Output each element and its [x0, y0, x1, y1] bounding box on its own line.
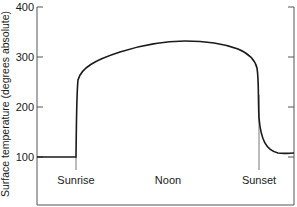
ytick-300: 300	[16, 51, 34, 63]
annotation-noon: Noon	[155, 174, 181, 186]
left-ticks	[37, 7, 43, 157]
right-ticks	[288, 7, 294, 157]
annotation-sunrise: Sunrise	[57, 174, 94, 186]
temperature-curve	[37, 41, 294, 157]
temperature-chart: Surface temperature (degrees absolute) 4…	[0, 0, 297, 207]
ytick-100: 100	[16, 151, 34, 163]
ytick-400: 400	[16, 1, 34, 13]
y-axis-label: Surface temperature (degrees absolute)	[0, 11, 11, 197]
ytick-200: 200	[16, 101, 34, 113]
annotation-sunset: Sunset	[242, 174, 276, 186]
